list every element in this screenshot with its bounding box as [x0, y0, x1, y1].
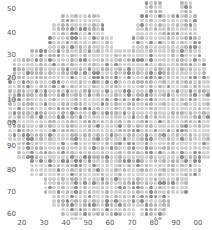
map-dot	[145, 186, 149, 190]
map-dot	[92, 32, 96, 36]
map-dot	[92, 115, 96, 119]
map-dot	[114, 124, 118, 128]
map-dot	[158, 203, 162, 207]
map-dot	[17, 120, 21, 124]
map-dot	[198, 142, 202, 146]
map-dot	[61, 107, 65, 111]
map-dot	[101, 129, 105, 133]
map-dot	[57, 142, 61, 146]
map-dot	[176, 80, 180, 84]
map-dot	[114, 212, 118, 216]
map-dot	[154, 142, 158, 146]
map-dot	[140, 49, 144, 53]
map-dot	[52, 146, 56, 150]
map-dot	[74, 63, 78, 67]
map-dot	[118, 173, 122, 177]
map-dot	[123, 58, 127, 62]
map-dot	[189, 133, 193, 137]
map-dot	[83, 107, 87, 111]
map-dot	[184, 71, 188, 75]
map-dot	[101, 67, 105, 71]
map-dot	[189, 23, 193, 27]
map-dot	[118, 85, 122, 89]
map-dot	[123, 80, 127, 84]
map-dot	[57, 23, 61, 27]
map-dot	[140, 151, 144, 155]
map-dot	[52, 71, 56, 75]
map-dot	[101, 85, 105, 89]
map-dot	[140, 137, 144, 141]
map-dot	[193, 23, 197, 27]
map-dot	[57, 115, 61, 119]
map-dot	[79, 120, 83, 124]
map-dot	[154, 27, 158, 31]
map-dot	[66, 208, 70, 212]
map-dot	[44, 111, 48, 115]
map-dot	[184, 177, 188, 181]
map-dot	[132, 111, 136, 115]
map-dot	[154, 107, 158, 111]
map-dot	[35, 120, 39, 124]
map-dot	[189, 19, 193, 23]
map-dot	[92, 195, 96, 199]
map-dot	[105, 45, 109, 49]
map-dot	[66, 186, 70, 190]
map-dot	[118, 49, 122, 53]
map-dot	[74, 151, 78, 155]
map-dot	[158, 71, 162, 75]
map-dot	[193, 146, 197, 150]
map-dot	[171, 102, 175, 106]
map-dot	[79, 45, 83, 49]
map-dot	[92, 120, 96, 124]
map-dot	[114, 63, 118, 67]
map-dot	[180, 67, 184, 71]
map-dot	[180, 85, 184, 89]
map-dot	[189, 120, 193, 124]
map-dot	[30, 80, 34, 84]
map-dot	[114, 155, 118, 159]
map-dot	[198, 49, 202, 53]
map-dot	[184, 36, 188, 40]
map-dot	[132, 93, 136, 97]
map-dot	[74, 98, 78, 102]
map-dot	[145, 10, 149, 14]
map-dot	[171, 181, 175, 185]
map-dot	[167, 27, 171, 31]
map-dot	[22, 146, 26, 150]
map-dot	[44, 98, 48, 102]
map-dot	[114, 173, 118, 177]
map-dot	[114, 107, 118, 111]
map-dot	[123, 93, 127, 97]
map-dot	[184, 186, 188, 190]
map-dot	[162, 32, 166, 36]
map-dot	[140, 89, 144, 93]
map-dot	[88, 89, 92, 93]
map-dot	[127, 129, 131, 133]
map-dot	[167, 67, 171, 71]
map-dot	[189, 111, 193, 115]
map-dot	[26, 102, 30, 106]
map-dot	[162, 212, 166, 216]
map-dot	[162, 27, 166, 31]
map-dot	[171, 111, 175, 115]
map-dot	[127, 107, 131, 111]
map-dot	[74, 199, 78, 203]
map-dot	[132, 54, 136, 58]
map-dot	[171, 49, 175, 53]
map-dot	[83, 142, 87, 146]
map-dot	[88, 115, 92, 119]
map-dot	[61, 54, 65, 58]
map-dot	[198, 45, 202, 49]
map-dot	[105, 111, 109, 115]
map-dot	[167, 115, 171, 119]
map-dot	[127, 137, 131, 141]
map-dot	[105, 89, 109, 93]
map-dot	[79, 115, 83, 119]
map-dot	[88, 146, 92, 150]
map-dot	[136, 102, 140, 106]
map-dot	[83, 181, 87, 185]
map-dot	[180, 19, 184, 23]
map-dot	[79, 89, 83, 93]
map-dot	[136, 164, 140, 168]
map-dot	[79, 102, 83, 106]
